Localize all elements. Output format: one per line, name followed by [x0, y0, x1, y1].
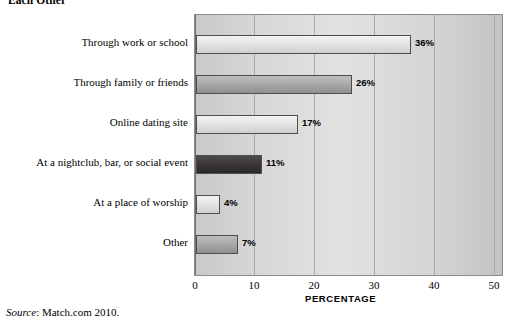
- source-text: : Match.com 2010.: [36, 306, 119, 318]
- gridline-50: [494, 15, 495, 275]
- gridline-40: [434, 15, 435, 275]
- source-label: Source: [6, 306, 36, 318]
- value-label-1: 26%: [356, 77, 375, 88]
- xtick-2: 20: [299, 279, 329, 291]
- plot-area: [194, 14, 503, 276]
- category-label-4: At a place of worship: [14, 196, 188, 208]
- value-label-0: 36%: [415, 37, 434, 48]
- value-label-2: 17%: [302, 117, 321, 128]
- bar-1: [196, 75, 352, 94]
- gridline-10: [254, 15, 255, 275]
- category-label-5: Other: [14, 236, 188, 248]
- xtick-5: 50: [479, 279, 509, 291]
- bar-5: [196, 235, 238, 254]
- bar-4: [196, 195, 220, 214]
- value-label-4: 4%: [224, 197, 238, 208]
- x-axis-title: PERCENTAGE: [305, 293, 376, 304]
- value-label-3: 11%: [266, 157, 285, 168]
- xtick-0: 0: [180, 279, 210, 291]
- xtick-4: 40: [419, 279, 449, 291]
- gridline-20: [314, 15, 315, 275]
- category-label-3: At a nightclub, bar, or social event: [6, 156, 188, 168]
- chart-title: Each Other: [8, 0, 66, 6]
- gridline-30: [374, 15, 375, 275]
- bar-3: [196, 155, 262, 174]
- xtick-3: 30: [359, 279, 389, 291]
- bar-2: [196, 115, 298, 134]
- chart-figure: Each Other Through work or school Throug…: [0, 0, 523, 327]
- source-note: Source: Match.com 2010.: [6, 306, 119, 318]
- xtick-1: 10: [239, 279, 269, 291]
- category-label-2: Online dating site: [14, 116, 188, 128]
- category-label-1: Through family or friends: [14, 76, 188, 88]
- value-label-5: 7%: [242, 237, 256, 248]
- bar-0: [196, 35, 411, 54]
- category-label-0: Through work or school: [14, 36, 188, 48]
